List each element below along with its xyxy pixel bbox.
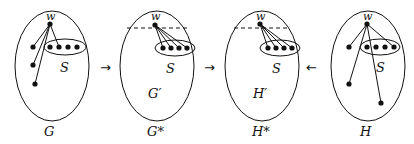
reduction-diagram: w S G → w S G′ G* → w S — [0, 0, 414, 144]
panel-G-label: G — [44, 124, 54, 139]
panel-Hstar — [225, 11, 300, 121]
inner-graph-label: H′ — [252, 86, 267, 101]
set-S-label: S — [376, 60, 385, 75]
inner-graph-label: G′ — [148, 86, 161, 101]
arrow-left: ← — [306, 60, 317, 75]
vertex-w-label: w — [46, 10, 56, 23]
vertex-w-label: w — [363, 10, 373, 23]
arrow-right-1: → — [100, 60, 111, 75]
panel-Hstar-label: H* — [251, 124, 270, 139]
panel-H-vertices — [346, 21, 396, 105]
panel-H — [331, 11, 405, 121]
set-S-label: S — [60, 60, 69, 75]
panel-Gstar-label: G* — [147, 124, 164, 139]
panel-G — [15, 11, 89, 121]
panel-Gstar — [120, 11, 195, 121]
vertex-w-label: w — [256, 10, 266, 23]
arrow-right-2: → — [204, 60, 215, 75]
vertex-w-label: w — [151, 10, 161, 23]
set-S-label: S — [272, 61, 281, 76]
panel-H-label: H — [359, 124, 372, 139]
set-S-label: S — [166, 61, 175, 76]
